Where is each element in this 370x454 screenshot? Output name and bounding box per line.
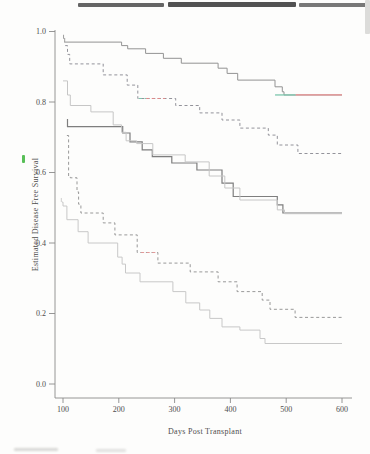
x-tick-label: 500 (280, 405, 292, 414)
censor-tick-marks (61, 35, 64, 202)
y-tick-label: 0.2 (36, 309, 46, 318)
cutoff-text-smudge (14, 448, 58, 451)
y-tick-label: 0.0 (36, 380, 46, 389)
green-ink-mark (22, 155, 25, 163)
y-tick-label: 1.0 (36, 27, 46, 36)
y-axis-title: Estimated Disease Free Survival (31, 135, 40, 295)
x-axis-ticks: 100200300400500600 (57, 398, 348, 414)
page-top-edge-bar (299, 3, 370, 7)
cutoff-text-smudge (96, 449, 126, 452)
x-tick-label: 300 (169, 405, 181, 414)
survival-curve-group-2-dashed-upper (65, 46, 342, 154)
page-top-edge-bar (78, 3, 164, 7)
x-tick-label: 100 (57, 405, 69, 414)
y-tick-label: 0.8 (36, 98, 46, 107)
scanned-figure-page: 0.00.20.40.60.81.0100200300400500600 Est… (0, 0, 370, 454)
x-tick-label: 200 (113, 405, 125, 414)
survival-curve-group-5-dashed-lower (67, 136, 342, 318)
color-print-artifacts (139, 95, 342, 253)
page-top-edge-bar (168, 2, 296, 7)
survival-curve-group-4-light-gray-middle (63, 81, 342, 214)
survival-chart: 0.00.20.40.60.81.0100200300400500600 (0, 0, 370, 454)
x-axis-title: Days Post Transplant (0, 427, 370, 436)
x-tick-label: 400 (224, 405, 236, 414)
page-right-edge-streak (365, 0, 370, 34)
x-tick-label: 600 (336, 405, 348, 414)
survival-curve-group-1-solid-top (64, 42, 342, 95)
survival-curve-group-3-solid-middle (67, 120, 342, 213)
